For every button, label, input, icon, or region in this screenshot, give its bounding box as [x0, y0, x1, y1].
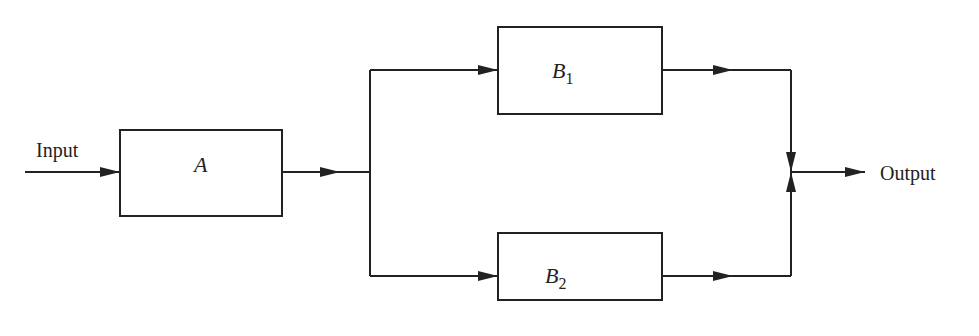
block-diagram: Input A B1 B2 Output [0, 0, 979, 336]
block-b2: B2 [498, 233, 662, 300]
block-b2-label: B [545, 263, 558, 288]
output-label: Output [880, 162, 936, 185]
block-a: A [120, 130, 282, 216]
block-b1-subscript: 1 [565, 70, 573, 87]
block-b2-subscript: 2 [558, 275, 566, 292]
svg-text:B1: B1 [552, 58, 573, 87]
block-b1-label: B [552, 58, 565, 83]
block-b1: B1 [498, 27, 662, 114]
block-a-label: A [192, 152, 208, 177]
input-label: Input [36, 139, 79, 162]
svg-text:B2: B2 [545, 263, 566, 292]
